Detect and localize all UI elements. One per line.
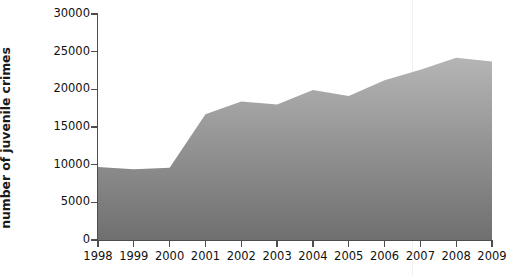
x-axis-tick [169, 241, 170, 247]
x-axis-tick [348, 241, 349, 247]
x-axis-tick [97, 241, 98, 247]
y-axis-tick [91, 89, 98, 90]
y-axis-tick [91, 202, 98, 203]
y-axis-tick [91, 13, 98, 14]
y-axis-tick [91, 126, 98, 127]
x-axis-tick [312, 241, 313, 247]
y-axis-title-label: number of juvenile crimes [0, 47, 13, 229]
x-axis-tick [384, 241, 385, 247]
x-axis-tick [491, 241, 492, 247]
x-axis-tick [133, 241, 134, 247]
area-series-path [98, 58, 492, 240]
x-axis-tick-label: 2009 [469, 251, 515, 263]
y-axis-tick-label: 20000 [38, 83, 90, 95]
area-chart: number of juvenile crimes 05000100001500… [0, 0, 525, 276]
y-axis-tick-label: 25000 [38, 46, 90, 58]
x-axis-tick [276, 241, 277, 247]
x-axis-tick [205, 241, 206, 247]
y-axis-tick-label: 0 [38, 234, 90, 246]
plot-area [98, 14, 492, 240]
y-axis-tick [91, 51, 98, 52]
y-axis-tick-label: 10000 [38, 159, 90, 171]
area-series-svg [98, 14, 492, 240]
x-axis-tick [241, 241, 242, 247]
y-axis-tick [91, 164, 98, 165]
x-axis-tick [420, 241, 421, 247]
x-axis-tick [456, 241, 457, 247]
y-axis-tick-label: 5000 [38, 196, 90, 208]
y-axis-tick-label: 30000 [38, 8, 90, 20]
y-axis-tick-label: 15000 [38, 121, 90, 133]
